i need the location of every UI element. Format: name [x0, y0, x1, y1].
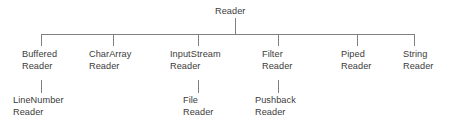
node-linenumber-reader[interactable]: LineNumber Reader — [13, 95, 64, 119]
node-inputstream-reader[interactable]: InputStream Reader — [170, 49, 221, 73]
node-buffered-reader[interactable]: Buffered Reader — [22, 49, 57, 73]
node-piped-reader[interactable]: Piped Reader — [341, 49, 372, 73]
node-filter-reader-label-line1: Filter — [262, 49, 293, 61]
node-chararray-reader[interactable]: CharArray Reader — [89, 49, 131, 73]
node-linenumber-reader-label-line2: Reader — [13, 107, 64, 119]
node-piped-reader-label-line2: Reader — [341, 61, 372, 73]
node-linenumber-reader-label-line1: LineNumber — [13, 95, 64, 107]
node-pushback-reader-label-line2: Reader — [255, 107, 296, 119]
node-chararray-reader-label-line2: Reader — [89, 61, 131, 73]
node-string-reader-label-line2: Reader — [403, 61, 434, 73]
node-file-reader[interactable]: File Reader — [183, 95, 214, 119]
node-reader-label-line1: Reader — [215, 6, 246, 18]
diagram-edges — [0, 0, 453, 135]
node-buffered-reader-label-line1: Buffered — [22, 49, 57, 61]
node-filter-reader-label-line2: Reader — [262, 61, 293, 73]
node-file-reader-label-line2: Reader — [183, 107, 214, 119]
node-inputstream-reader-label-line1: InputStream — [170, 49, 221, 61]
node-string-reader[interactable]: String Reader — [403, 49, 434, 73]
node-file-reader-label-line1: File — [183, 95, 214, 107]
node-inputstream-reader-label-line2: Reader — [170, 61, 221, 73]
node-reader[interactable]: Reader — [215, 6, 246, 18]
node-pushback-reader-label-line1: Pushback — [255, 95, 296, 107]
node-pushback-reader[interactable]: Pushback Reader — [255, 95, 296, 119]
node-string-reader-label-line1: String — [403, 49, 434, 61]
node-piped-reader-label-line1: Piped — [341, 49, 372, 61]
node-chararray-reader-label-line1: CharArray — [89, 49, 131, 61]
node-filter-reader[interactable]: Filter Reader — [262, 49, 293, 73]
node-buffered-reader-label-line2: Reader — [22, 61, 57, 73]
class-hierarchy-diagram: Reader Buffered Reader CharArray Reader … — [0, 0, 453, 135]
